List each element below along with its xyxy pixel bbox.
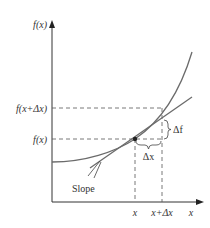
tangent-point [133,137,137,141]
tick-x-label: x [132,207,138,218]
x-axis-label: x [188,207,194,218]
fx-label: f(x) [33,134,48,146]
y-axis-label: f(x) [33,19,48,31]
y-axis-arrow-icon [49,20,55,28]
delta-x-brace [136,141,161,149]
delta-f-label: Δf [173,124,183,135]
slope-label: Slope [72,183,95,194]
x-axis-arrow-icon [196,199,204,205]
delta-x-label: Δx [143,151,154,162]
tick-x-plus-dx-label: x+Δx [150,207,173,218]
delta-f-brace [164,120,171,139]
fx-plus-dx-label: f(x+Δx) [16,103,48,115]
derivative-diagram: f(x) f(x+Δx) f(x) Δf Δx Slope x x+Δx x [0,0,210,228]
